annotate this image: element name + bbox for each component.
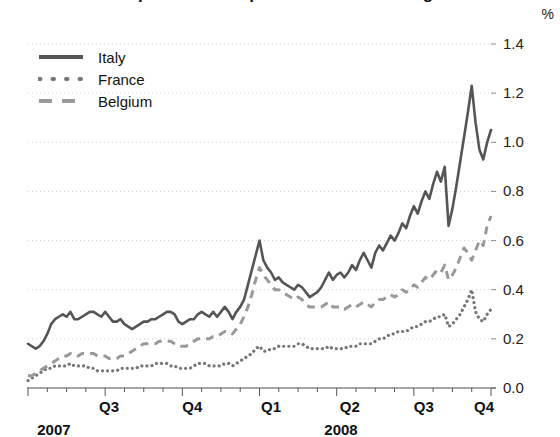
y-axis-tick-label: 0.0 — [503, 379, 524, 396]
series-lines — [28, 86, 491, 381]
x-axis-tick-label: Q2 — [325, 398, 375, 415]
legend-swatch-belgium — [38, 94, 84, 108]
x-axis-tick-label: Q4 — [167, 398, 217, 415]
axis-tick-marks — [27, 388, 496, 396]
x-axis-year-label: 2008 — [324, 421, 357, 437]
legend-swatch-italy — [38, 50, 84, 64]
legend-label-italy: Italy — [98, 49, 126, 66]
x-axis-tick-label: Q3 — [399, 398, 449, 415]
y-axis-tick-label: 0.4 — [503, 281, 524, 298]
x-axis-tick-label: Q1 — [246, 398, 296, 415]
y-axis-tick-label: 0.2 — [503, 330, 524, 347]
series-line-italy — [28, 86, 491, 349]
legend-swatch-france — [38, 72, 84, 86]
legend-item-italy: Italy — [38, 46, 152, 68]
y-axis-tick-label: 1.0 — [503, 133, 524, 150]
series-line-france — [28, 290, 491, 381]
x-axis-tick-label: Q3 — [84, 398, 134, 415]
x-axis-year-label: 2007 — [37, 421, 70, 437]
legend-label-france: France — [98, 71, 145, 88]
legend-item-belgium: Belgium — [38, 90, 152, 112]
chart-legend: Italy France Belgium — [38, 46, 152, 112]
legend-item-france: France — [38, 68, 152, 90]
y-axis-tick-label: 1.4 — [503, 35, 524, 52]
y-axis-tick-label: 0.6 — [503, 232, 524, 249]
x-axis-tick-label: Q4 — [459, 398, 509, 415]
legend-label-belgium: Belgium — [98, 93, 152, 110]
y-axis-tick-label: 0.8 — [503, 182, 524, 199]
y-axis-tick-label: 1.2 — [503, 84, 524, 101]
chart-container: Spreads on corporate bonds widening % 0.… — [0, 0, 560, 437]
